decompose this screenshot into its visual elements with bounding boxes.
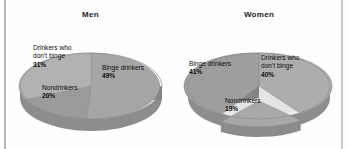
chart-panel-men: Men [6,0,175,149]
chart-title-women: Women [175,10,343,19]
pie-svg-men [11,24,171,140]
pie-chart-women: Binge drinkers 41% Drinkers who don't bi… [175,24,343,142]
chart-title-men: Men [6,10,175,19]
pie-chart-men: Binge drinkers 49% Drinkers who don't bi… [6,24,175,142]
pie-svg-women [179,24,339,140]
chart-panel-women: Women [175,0,343,149]
figure-root: Men [0,0,349,149]
